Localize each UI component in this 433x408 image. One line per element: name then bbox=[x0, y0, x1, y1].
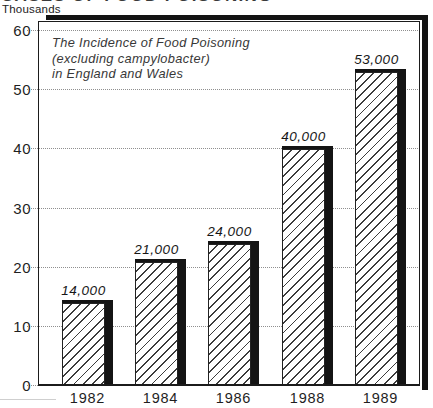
y-tick-label: 50 bbox=[0, 81, 31, 98]
chart-note-line-3: in England and Wales bbox=[52, 66, 250, 82]
y-tick-label: 60 bbox=[0, 22, 31, 39]
scan-artifact-line bbox=[0, 399, 56, 400]
chart-note-line-1: The Incidence of Food Poisoning bbox=[52, 35, 250, 51]
x-tick-label: 1986 bbox=[194, 390, 274, 406]
y-axis-unit-label: Thousands bbox=[2, 3, 61, 15]
plot-shadow-top bbox=[46, 15, 428, 20]
y-tick-label: 20 bbox=[0, 259, 31, 276]
plot-shadow-right bbox=[422, 15, 428, 390]
scanned-chart-page: CASES OF FOOD POISONING Thousands 010203… bbox=[0, 0, 433, 408]
y-tick-label: 10 bbox=[0, 318, 31, 335]
y-tick-label: 30 bbox=[0, 200, 31, 217]
chart-note-line-2: (excluding campylobacter) bbox=[52, 51, 250, 67]
x-tick-label: 1988 bbox=[268, 390, 348, 406]
y-tick-label: 0 bbox=[0, 377, 31, 394]
chart-note: The Incidence of Food Poisoning (excludi… bbox=[52, 35, 250, 82]
y-tick-label: 40 bbox=[0, 140, 31, 157]
x-tick-label: 1989 bbox=[341, 390, 421, 406]
x-tick-label: 1982 bbox=[48, 390, 128, 406]
x-tick-label: 1984 bbox=[121, 390, 201, 406]
